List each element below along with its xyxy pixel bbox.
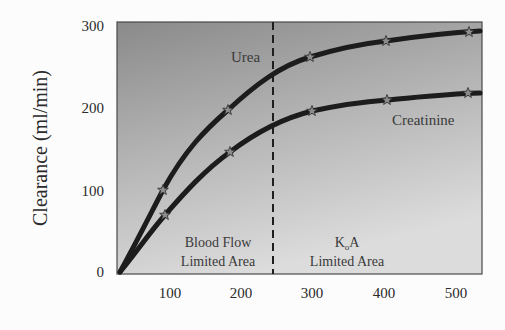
y-tick: 0 <box>97 264 105 280</box>
y-tick: 100 <box>82 183 105 199</box>
y-tick: 200 <box>82 100 105 116</box>
x-tick: 300 <box>301 285 324 301</box>
x-tick: 100 <box>159 285 182 301</box>
urea-label: Urea <box>231 49 260 65</box>
y-tick: 300 <box>82 18 105 34</box>
x-axis-ticks: 100 200 300 400 500 <box>159 285 468 301</box>
koa-label-line2: Limited Area <box>310 254 385 269</box>
x-tick: 400 <box>373 285 396 301</box>
y-axis-ticks: 0 100 200 300 <box>82 18 105 280</box>
x-tick: 500 <box>445 285 468 301</box>
blood-flow-label-line2: Limited Area <box>181 254 256 269</box>
x-tick: 200 <box>230 285 253 301</box>
clearance-chart: Urea Creatinine Blood Flow Limited Area … <box>0 0 505 330</box>
creatinine-label: Creatinine <box>392 112 455 128</box>
y-axis-label: Clearance (ml/min) <box>29 70 52 226</box>
blood-flow-label-line1: Blood Flow <box>185 235 252 250</box>
